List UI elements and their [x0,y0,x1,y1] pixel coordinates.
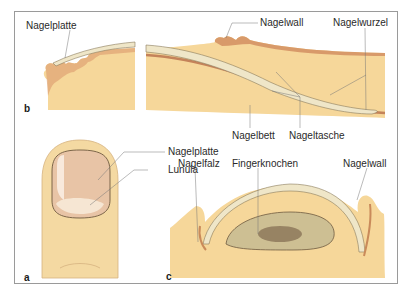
label-b-nagelplatte: Nagelplatte [26,20,77,32]
label-b-nagelwurzel: Nagelwurzel [333,17,388,29]
label-b-nageltasche: Nageltasche [289,130,345,142]
label-c-fingerknochen: Fingerknochen [232,158,298,170]
panel-b-illustration [44,23,385,128]
label-b-nagelbett: Nagelbett [232,130,275,142]
label-c-nagelwall: Nagelwall [343,158,386,170]
label-c-nagelfalz: Nagelfalz [178,158,220,170]
label-a-nagelplatte: Nagelplatte [168,146,219,158]
panel-c-illustration [170,168,385,278]
label-b-nagelwall: Nagelwall [260,17,303,29]
panel-letter-b: b [24,103,30,114]
panel-a-illustration [42,140,165,278]
panel-letter-a: a [24,272,30,283]
panel-letter-c: c [166,271,172,282]
